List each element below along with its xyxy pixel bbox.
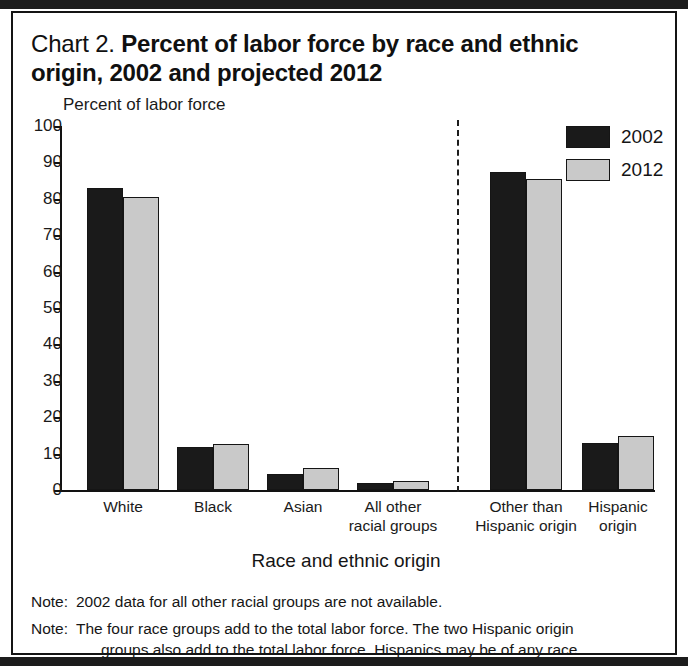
note-row: Note: 2002 data for all other racial gro… (31, 591, 661, 612)
bar-2012-all-other-racial-groups (393, 481, 429, 490)
figure-frame: Chart 2. Percent of labor force by race … (11, 11, 677, 655)
y-axis-label: Percent of labor force (63, 95, 226, 115)
bar-2002-white (87, 188, 123, 490)
note-text-line1: The four race groups add to the total la… (76, 620, 574, 637)
y-axis-tick-label: 10 (28, 444, 62, 464)
x-axis-label-all-other-racial-groups: All otherracial groups (323, 497, 463, 535)
y-axis-tick-label: 30 (28, 371, 62, 391)
bar-2002-hispanic-origin (582, 443, 618, 490)
chart-legend: 2002 2012 (566, 120, 663, 186)
bar-2012-hispanic-origin (618, 436, 654, 490)
note-text-line2: groups also add to the total labor force… (76, 639, 661, 660)
legend-item-2012: 2012 (566, 153, 663, 186)
y-axis-tick-label: 90 (28, 152, 62, 172)
bar-2012-asian (303, 468, 339, 490)
y-axis-tick-label: 80 (28, 189, 62, 209)
y-axis-tick-label: 20 (28, 407, 62, 427)
x-axis-title: Race and ethnic origin (13, 550, 679, 572)
y-axis-tick-label: 100 (28, 116, 62, 136)
bar-2012-white (123, 197, 159, 490)
scan-band-top (0, 0, 688, 9)
legend-swatch-2002 (566, 126, 610, 148)
x-axis-label-line: All other (323, 497, 463, 516)
note-tag: Note: (31, 618, 76, 660)
bar-2002-black (177, 447, 213, 490)
chart-screenshot: Chart 2. Percent of labor force by race … (0, 0, 688, 666)
legend-label-2002: 2002 (621, 126, 663, 148)
legend-label-2012: 2012 (621, 159, 663, 181)
legend-item-2002: 2002 (566, 120, 663, 153)
x-axis-label-line: racial groups (323, 516, 463, 535)
note-text: The four race groups add to the total la… (76, 618, 661, 660)
legend-swatch-2012 (566, 159, 610, 181)
plot-area: Percent of labor force 01020304050607080… (13, 13, 679, 657)
x-axis-line (60, 490, 655, 492)
bar-2002-asian (267, 474, 303, 490)
x-axis-label-line: Hispanic (548, 497, 688, 516)
y-axis-tick-label: 70 (28, 225, 62, 245)
chart-notes: Note: 2002 data for all other racial gro… (31, 591, 661, 666)
bar-2002-all-other-racial-groups (357, 483, 393, 490)
bar-2012-black (213, 444, 249, 490)
group-divider-dashed-line (457, 120, 459, 492)
y-axis-tick-label: 60 (28, 262, 62, 282)
x-axis-label-hispanic-origin: Hispanicorigin (548, 497, 688, 535)
note-tag: Note: (31, 591, 76, 612)
x-axis-label-line: origin (548, 516, 688, 535)
bar-2012-other-than-hispanic-origin (526, 179, 562, 490)
note-row: Note: The four race groups add to the to… (31, 618, 661, 660)
bar-2002-other-than-hispanic-origin (490, 172, 526, 491)
note-text: 2002 data for all other racial groups ar… (76, 591, 661, 612)
y-axis-tick-label: 50 (28, 298, 62, 318)
y-axis-tick-label: 40 (28, 334, 62, 354)
